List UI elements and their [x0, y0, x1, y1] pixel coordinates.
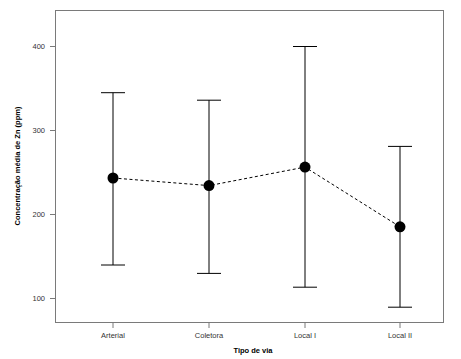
plot-panel [56, 11, 444, 323]
x-tick-label-local-i: Local I [294, 331, 316, 340]
y-tick-label-400: 400 [32, 42, 45, 51]
data-point-coletora [204, 180, 215, 191]
data-point-arterial [108, 173, 119, 184]
x-tick-label-arterial: Arterial [101, 331, 125, 340]
zinc-concentration-errorbar-chart: 100 200 300 400 Arterial Coletora Local … [0, 0, 461, 359]
y-tick-label-100: 100 [32, 294, 45, 303]
x-axis-ticks: Arterial Coletora Local I Local II [101, 323, 412, 341]
x-tick-label-local-ii: Local II [388, 331, 412, 340]
y-tick-label-300: 300 [32, 126, 45, 135]
y-axis-ticks: 100 200 300 400 [32, 42, 55, 303]
x-tick-label-coletora: Coletora [195, 331, 224, 340]
y-tick-label-200: 200 [32, 210, 45, 219]
data-point-local-i [300, 162, 311, 173]
data-point-local-ii [395, 221, 406, 232]
y-axis-title: Concentração média de Zn (ppm) [13, 106, 22, 225]
chart-container: 100 200 300 400 Arterial Coletora Local … [0, 0, 461, 359]
x-axis-title: Tipo de via [233, 346, 273, 355]
